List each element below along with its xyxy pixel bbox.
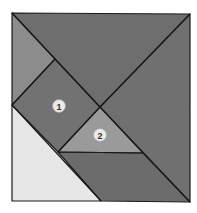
label-2: 2 (94, 129, 107, 142)
label-1-text: 1 (56, 102, 61, 112)
label-1: 1 (53, 100, 66, 113)
tangram-diagram: 1 2 (0, 0, 197, 213)
label-2-text: 2 (97, 131, 102, 141)
